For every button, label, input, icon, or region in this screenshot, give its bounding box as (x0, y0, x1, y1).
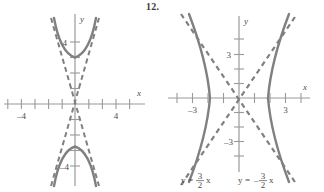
left-graph-svg: –4 4 4 –4 x y (0, 0, 162, 192)
right-x-tick-label-negative: –3 (187, 105, 198, 115)
right-graph-svg: –3 3 3 –3 x y y = 3 2 x y = – 3 (162, 0, 324, 192)
right-x-axis-label: x (302, 82, 307, 92)
asymptote-equation-label-positive: y = 3 2 x (181, 171, 211, 190)
left-y-tick-label-positive: 4 (63, 38, 68, 48)
right-y-tick-label-negative: –3 (223, 137, 234, 147)
left-x-tick-label-negative: –4 (16, 111, 27, 121)
eq-right-equals: = (245, 175, 250, 185)
right-x-tick-label-positive: 3 (283, 105, 288, 115)
right-y-tick-label-positive: 3 (227, 50, 232, 60)
asymptote-equation-label-negative: y = – 3 2 x (238, 171, 274, 190)
eq-right-lhs: y (238, 175, 243, 185)
left-y-axis-label: y (79, 14, 84, 24)
eq-left-equals: = (188, 175, 193, 185)
eq-right-sign: – (253, 175, 259, 185)
eq-right-denominator: 2 (261, 180, 266, 190)
eq-left-denominator: 2 (198, 180, 203, 190)
eq-left-lhs: y (181, 175, 186, 185)
eq-right-variable: x (269, 175, 274, 185)
left-y-tick-label-negative: –4 (59, 162, 70, 172)
figure-root: 12. (0, 0, 324, 192)
eq-left-variable: x (206, 175, 211, 185)
right-y-axis-label: y (243, 16, 248, 26)
left-x-axis-label: x (136, 88, 141, 98)
left-x-tick-label-positive: 4 (114, 111, 119, 121)
right-graph-panel: –3 3 3 –3 x y y = 3 2 x y = – 3 (162, 0, 324, 192)
left-graph-panel: –4 4 4 –4 x y (0, 0, 162, 192)
